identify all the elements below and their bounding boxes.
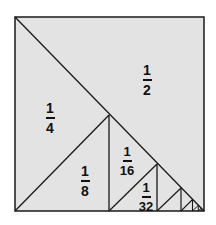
label-one-thirtysecond: 1 32 bbox=[135, 181, 157, 213]
label-one-quarter: 1 4 bbox=[40, 101, 60, 135]
fraction-bar bbox=[81, 180, 90, 182]
fraction-bar bbox=[143, 79, 152, 81]
series-diagram bbox=[0, 0, 216, 225]
numerator: 1 bbox=[75, 164, 95, 178]
fraction-bar bbox=[123, 160, 132, 162]
numerator: 1 bbox=[116, 145, 138, 158]
denominator: 4 bbox=[40, 121, 60, 135]
numerator: 1 bbox=[137, 63, 157, 77]
label-one-eighth: 1 8 bbox=[75, 164, 95, 198]
denominator: 16 bbox=[116, 164, 138, 177]
label-one-half: 1 2 bbox=[137, 63, 157, 97]
label-one-sixteenth: 1 16 bbox=[116, 145, 138, 177]
denominator: 32 bbox=[135, 200, 157, 213]
denominator: 8 bbox=[75, 184, 95, 198]
fraction-bar bbox=[142, 196, 151, 198]
numerator: 1 bbox=[40, 101, 60, 115]
fraction-bar bbox=[46, 117, 55, 119]
denominator: 2 bbox=[137, 83, 157, 97]
numerator: 1 bbox=[135, 181, 157, 194]
